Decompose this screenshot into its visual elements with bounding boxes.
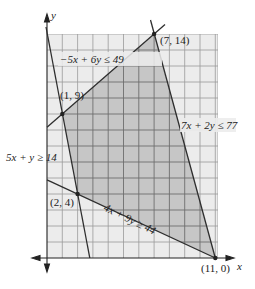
vertex-label-11-0: (11, 0) <box>201 262 230 275</box>
constraint-label-3: 5x + y ≥ 14 <box>6 151 57 163</box>
constraint-label-2: 7x + 2y ≤ 77 <box>181 119 238 131</box>
x-axis-arrow-right-icon <box>226 256 234 261</box>
x-axis-arrow-left-icon <box>32 256 40 261</box>
y-axis-arrow-down-icon <box>45 264 50 272</box>
constraint-label-1: −5x + 6y ≤ 49 <box>60 53 124 65</box>
y-axis-arrow-up-icon <box>45 14 50 22</box>
feasible-region-graph: y x −5x + 6y ≤ 49 7x + 2y ≤ 77 5x + y ≥ … <box>0 0 255 289</box>
x-axis-label: x <box>236 260 242 272</box>
y-axis-label: y <box>50 9 56 21</box>
vertex-label-7-14: (7, 14) <box>160 34 190 47</box>
vertex-label-2-4: (2, 4) <box>50 196 74 209</box>
vertex-label-1-9: (1, 9) <box>60 89 84 102</box>
